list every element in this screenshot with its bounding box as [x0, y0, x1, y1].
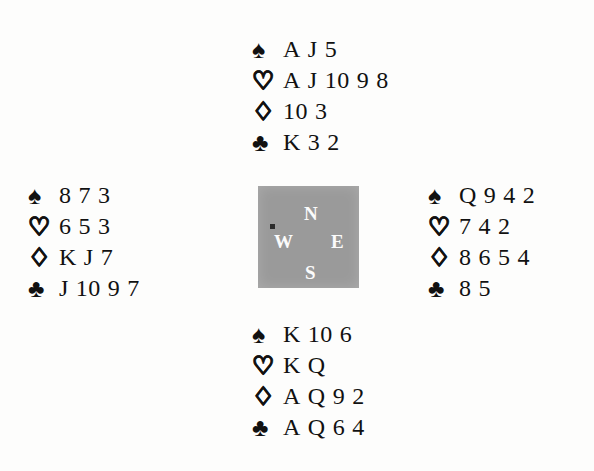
east-heart-holding: 742 [452, 211, 511, 242]
spade-suit-symbol: ♠ [252, 34, 276, 65]
card-rank: 5 [79, 213, 92, 239]
spade-suit-symbol: ♠ [428, 180, 452, 211]
south-spade-row: ♠ K106 [252, 319, 365, 350]
card-rank: 6 [479, 244, 492, 270]
card-rank: 9 [108, 275, 121, 301]
east-diamond-holding: 8654 [452, 242, 530, 273]
north-club-row: ♣ K32 [252, 127, 389, 158]
card-rank: 2 [352, 383, 365, 409]
card-rank: 8 [376, 67, 389, 93]
card-rank: A [283, 414, 301, 440]
diamond-suit-symbol: ♢ [28, 242, 52, 273]
hand-west: ♠ 873 ♡ 653 ♢ KJ7 ♣ J1097 [28, 180, 140, 304]
compass-box: N W E S [258, 186, 359, 288]
card-rank: 10 [325, 67, 350, 93]
card-rank: J [308, 36, 318, 62]
north-heart-row: ♡ AJ1098 [252, 65, 389, 96]
card-rank: 9 [333, 383, 346, 409]
card-rank: Q [308, 414, 326, 440]
card-rank: 2 [498, 213, 511, 239]
west-diamond-row: ♢ KJ7 [28, 242, 140, 273]
card-rank: J [308, 67, 318, 93]
card-rank: K [283, 352, 301, 378]
card-rank: Q [308, 352, 326, 378]
card-rank: 6 [333, 414, 346, 440]
card-rank: 4 [479, 213, 492, 239]
card-rank: 10 [308, 321, 333, 347]
north-club-holding: K32 [276, 127, 340, 158]
card-rank: 3 [315, 98, 328, 124]
bridge-deal-diagram: ♠ AJ5 ♡ AJ1098 ♢ 103 ♣ K32 ♠ 873 ♡ 653 ♢… [0, 0, 594, 471]
card-rank: 8 [459, 244, 472, 270]
club-suit-symbol: ♣ [28, 273, 52, 304]
spade-suit-symbol: ♠ [252, 319, 276, 350]
card-rank: 4 [518, 244, 531, 270]
card-rank: 6 [59, 213, 72, 239]
east-spade-holding: Q942 [452, 180, 535, 211]
hand-south: ♠ K106 ♡ KQ ♢ AQ92 ♣ AQ64 [252, 319, 365, 443]
card-rank: 8 [459, 275, 472, 301]
west-heart-row: ♡ 653 [28, 211, 140, 242]
west-club-row: ♣ J1097 [28, 273, 140, 304]
card-rank: 5 [479, 275, 492, 301]
dealer-mark-icon [270, 224, 275, 229]
east-club-row: ♣ 85 [428, 273, 535, 304]
compass-label-west: W [274, 232, 293, 251]
card-rank: 3 [308, 129, 321, 155]
card-rank: 9 [484, 182, 497, 208]
north-spade-row: ♠ AJ5 [252, 34, 389, 65]
north-diamond-row: ♢ 103 [252, 96, 389, 127]
south-heart-row: ♡ KQ [252, 350, 365, 381]
compass-label-south: S [305, 263, 316, 282]
club-suit-symbol: ♣ [428, 273, 452, 304]
card-rank: 9 [357, 67, 370, 93]
compass-label-east: E [331, 232, 344, 251]
card-rank: 10 [76, 275, 101, 301]
heart-suit-symbol: ♡ [428, 211, 452, 242]
south-club-holding: AQ64 [276, 412, 365, 443]
card-rank: 7 [127, 275, 140, 301]
card-rank: 2 [327, 129, 340, 155]
card-rank: 5 [325, 36, 338, 62]
north-spade-holding: AJ5 [276, 34, 337, 65]
south-spade-holding: K106 [276, 319, 352, 350]
west-diamond-holding: KJ7 [52, 242, 113, 273]
card-rank: K [59, 244, 77, 270]
heart-suit-symbol: ♡ [252, 350, 276, 381]
hand-east: ♠ Q942 ♡ 742 ♢ 8654 ♣ 85 [428, 180, 535, 304]
card-rank: K [283, 321, 301, 347]
card-rank: A [283, 383, 301, 409]
diamond-suit-symbol: ♢ [252, 96, 276, 127]
south-heart-holding: KQ [276, 350, 326, 381]
card-rank: 4 [503, 182, 516, 208]
compass-label-north: N [304, 204, 318, 223]
south-diamond-row: ♢ AQ92 [252, 381, 365, 412]
card-rank: Q [459, 182, 477, 208]
north-heart-holding: AJ1098 [276, 65, 389, 96]
card-rank: 10 [283, 98, 308, 124]
card-rank: 3 [98, 213, 111, 239]
west-spade-row: ♠ 873 [28, 180, 140, 211]
card-rank: 5 [498, 244, 511, 270]
east-heart-row: ♡ 742 [428, 211, 535, 242]
card-rank: K [283, 129, 301, 155]
club-suit-symbol: ♣ [252, 412, 276, 443]
card-rank: A [283, 67, 301, 93]
heart-suit-symbol: ♡ [252, 65, 276, 96]
card-rank: A [283, 36, 301, 62]
card-rank: 7 [101, 244, 114, 270]
spade-suit-symbol: ♠ [28, 180, 52, 211]
east-club-holding: 85 [452, 273, 491, 304]
card-rank: 6 [340, 321, 353, 347]
west-spade-holding: 873 [52, 180, 111, 211]
west-heart-holding: 653 [52, 211, 111, 242]
card-rank: 4 [352, 414, 365, 440]
card-rank: J [84, 244, 94, 270]
card-rank: J [59, 275, 69, 301]
east-spade-row: ♠ Q942 [428, 180, 535, 211]
diamond-suit-symbol: ♢ [252, 381, 276, 412]
south-diamond-holding: AQ92 [276, 381, 365, 412]
diamond-suit-symbol: ♢ [428, 242, 452, 273]
club-suit-symbol: ♣ [252, 127, 276, 158]
south-club-row: ♣ AQ64 [252, 412, 365, 443]
